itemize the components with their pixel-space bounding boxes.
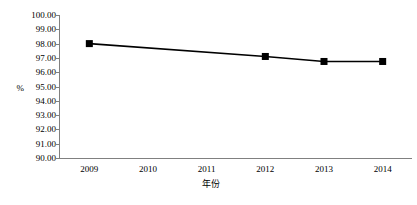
y-axis-tick-label: 94.00 (12, 96, 56, 106)
series-polyline (89, 44, 382, 62)
y-axis-tick-mark (55, 72, 59, 73)
y-axis-tick-mark (55, 87, 59, 88)
y-axis-tick-labels: 100.0099.0098.0097.0096.0095.0094.0093.0… (12, 10, 56, 158)
y-axis-tick-mark (55, 29, 59, 30)
data-series-line (60, 15, 412, 158)
line-chart: % 100.0099.0098.0097.0096.0095.0094.0093… (0, 0, 417, 205)
x-axis-tick-labels: 200920102011201220132014 (60, 163, 412, 177)
y-axis-tick-mark (55, 144, 59, 145)
x-axis-tick-label: 2010 (118, 163, 178, 175)
data-point-marker (379, 58, 386, 65)
y-axis-tick-label: 99.00 (12, 24, 56, 34)
data-point-marker (86, 40, 93, 47)
y-axis-tick-label: 93.00 (12, 110, 56, 120)
y-axis-tick-mark (55, 115, 59, 116)
y-axis-tick-mark (55, 129, 59, 130)
y-axis-tick-mark (55, 158, 59, 159)
x-axis-line (59, 158, 412, 159)
y-axis-tick-label: 95.00 (12, 82, 56, 92)
y-axis-tick-label: 92.00 (12, 124, 56, 134)
y-axis-tick-label: 98.00 (12, 39, 56, 49)
x-axis-tick-label: 2009 (59, 163, 119, 175)
y-axis-tick-label: 100.00 (12, 10, 56, 20)
x-axis-tick-label: 2014 (353, 163, 413, 175)
y-axis-tick-mark (55, 101, 59, 102)
y-axis-tick-label: 90.00 (12, 153, 56, 163)
y-axis-tick-label: 97.00 (12, 53, 56, 63)
data-point-marker (321, 58, 328, 65)
x-axis-title: 年份 (0, 178, 417, 190)
y-axis-tick-mark (55, 15, 59, 16)
y-axis-tick-label: 96.00 (12, 67, 56, 77)
x-axis-tick-label: 2012 (235, 163, 295, 175)
y-axis-tick-label: 91.00 (12, 139, 56, 149)
data-point-marker (262, 53, 269, 60)
x-axis-tick-label: 2011 (177, 163, 237, 175)
y-axis-tick-mark (55, 58, 59, 59)
x-axis-tick-label: 2013 (294, 163, 354, 175)
y-axis-tick-mark (55, 44, 59, 45)
